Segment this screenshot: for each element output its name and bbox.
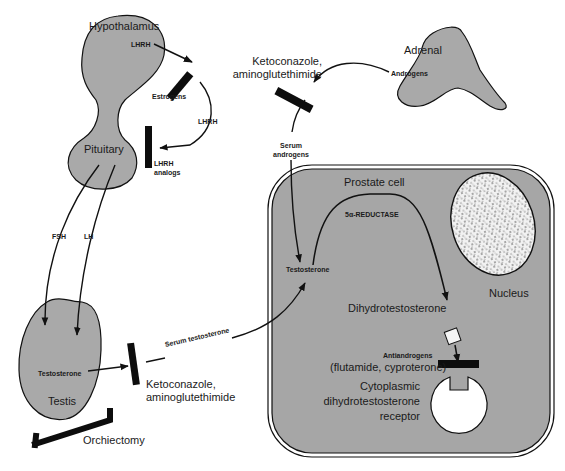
orchiectomy-label: Orchiectomy — [83, 434, 145, 447]
lh-label: LH — [84, 233, 93, 241]
receptor-label-1: Cytoplasmic — [320, 380, 420, 393]
receptor-label-3: receptor — [320, 410, 420, 423]
serum-androgens-label-1: Serum — [271, 142, 311, 150]
nucleus-label: Nucleus — [489, 287, 529, 300]
adrenal-label: Adrenal — [404, 44, 442, 57]
receptor-label-2: dihydrotestosterone — [320, 395, 420, 408]
adrenal-shape — [398, 27, 507, 109]
lhrh-analogs-blocker — [145, 126, 152, 168]
fsh-label: FSH — [52, 233, 66, 241]
lhrh-analogs-label-2: analogs — [154, 169, 180, 177]
lhrh-analogs-label-1: LHRH — [154, 160, 173, 168]
keto-top-blocker — [274, 87, 313, 113]
pituitary-label: Pituitary — [84, 143, 124, 156]
serum-testosterone-line — [146, 358, 165, 362]
prostate-cell-label: Prostate cell — [344, 176, 405, 189]
lhrh-loop-label: LHRH — [198, 118, 217, 126]
antiandrogens-label: Antiandrogens — [383, 352, 432, 360]
testis-label: Testis — [48, 395, 76, 408]
antiandrogens-drugs-label: (flutamide, cyproterone) — [330, 361, 446, 374]
androgens-label: Androgens — [391, 70, 428, 78]
testosterone-testis-label: Testosterone — [38, 370, 81, 378]
prostate-hormone-diagram: Hypothalamus LHRH Pituitary Estrogens LH… — [0, 0, 565, 471]
hypothalamus-label: Hypothalamus — [89, 20, 159, 33]
reductase-label: 5α-REDUCTASE — [345, 211, 399, 219]
keto-bottom-label-2: aminoglutethimide — [146, 391, 235, 404]
androgens-arrow — [314, 63, 389, 82]
keto-top-label-2: aminoglutethimide — [216, 68, 322, 81]
serum-androgens-label-2: androgens — [271, 151, 311, 159]
keto-bottom-label-1: Ketoconazole, — [146, 378, 216, 391]
keto-top-label-1: Ketoconazole, — [232, 55, 322, 68]
keto-bottom-blocker — [127, 343, 140, 386]
testosterone-cell-label: Testosterone — [286, 266, 329, 274]
lhrh-loop-arrow — [160, 82, 211, 148]
lhrh-label: LHRH — [131, 41, 150, 49]
estrogens-label: Estrogens — [152, 93, 186, 101]
dht-label: Dihydrotestosterone — [348, 302, 446, 315]
